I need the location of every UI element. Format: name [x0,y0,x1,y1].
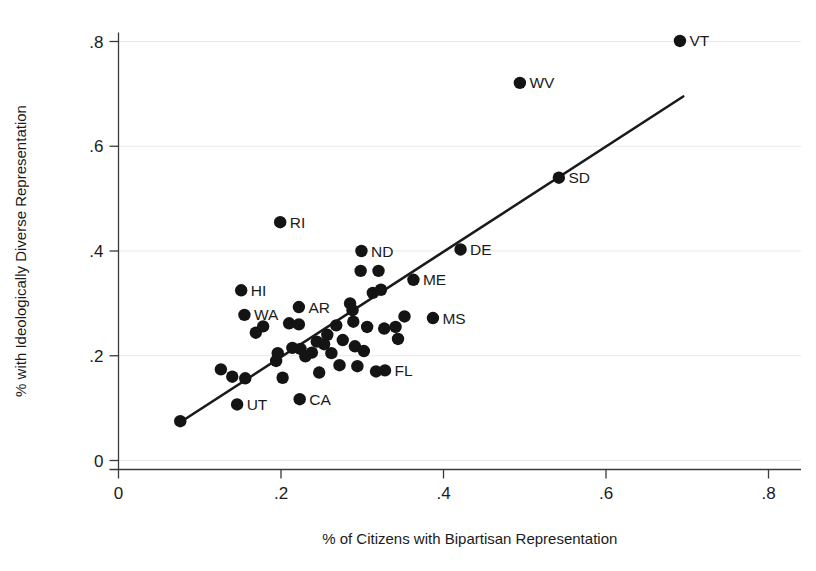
x-tick-label-3: .6 [599,484,613,503]
x-tick-labels-group: 0.2.4.6.8 [114,484,776,503]
data-point-47 [372,265,384,277]
data-point-36 [337,334,349,346]
y-tick-label-3: .6 [89,137,103,156]
point-label-RI: RI [290,214,306,231]
data-point-44 [361,321,373,333]
data-point-MS [427,312,439,324]
data-point-51 [392,333,404,345]
point-label-UT: UT [247,396,268,413]
x-tick-label-4: .8 [761,484,775,503]
y-axis-title: % with Ideologically Diverse Representat… [12,105,29,397]
data-point-16 [226,371,238,383]
data-point-DE [454,243,466,255]
data-point-VT [674,35,686,47]
data-point-32 [321,329,333,341]
data-point-43 [358,345,370,357]
x-tick-label-2: .4 [436,484,450,503]
data-point-46 [370,365,382,377]
point-label-ME: ME [423,271,446,288]
x-tick-label-0: 0 [114,484,123,503]
data-point-41 [351,360,363,372]
data-point-52 [398,310,410,322]
data-point-38 [346,304,358,316]
y-tick-label-0: 0 [94,452,103,471]
fit-line-group [180,96,683,422]
data-point-CA [293,393,305,405]
data-point-30 [313,366,325,378]
y-tick-label-4: .8 [89,33,103,52]
data-point-35 [333,359,345,371]
y-tick-labels-group: 0.2.4.6.8 [89,33,103,471]
x-axis-title: % of Citizens with Bipartisan Representa… [322,530,617,547]
data-point-ND [355,245,367,257]
data-point-21 [272,347,284,359]
data-point-SD [553,171,565,183]
data-points-group [174,35,686,428]
point-label-WA: WA [254,306,279,323]
data-point-15 [215,363,227,375]
data-point-22 [276,372,288,384]
data-point-UT [231,398,243,410]
point-label-HI: HI [251,282,267,299]
data-point-RI [274,216,286,228]
point-label-FL: FL [395,362,413,379]
x-tick-label-1: .2 [274,484,288,503]
data-point-WA [238,309,250,321]
tickmarks-group [110,42,769,479]
data-point-25 [293,318,305,330]
data-point-17 [239,372,251,384]
regression-line [180,96,683,422]
point-label-DE: DE [470,241,492,258]
point-label-WV: WV [529,74,555,91]
point-label-ND: ND [371,243,393,260]
data-point-AR [293,301,305,313]
data-point-39 [347,316,359,328]
data-point-42 [354,265,366,277]
data-point-HI [235,284,247,296]
data-point-50 [389,321,401,333]
data-point-ME [407,274,419,286]
y-tick-label-1: .2 [89,347,103,366]
point-label-CA: CA [309,391,331,408]
point-label-AR: AR [308,299,330,316]
data-point-48 [375,284,387,296]
data-point-28 [306,346,318,358]
data-point-14 [174,415,186,427]
data-point-34 [330,319,342,331]
data-point-33 [325,347,337,359]
data-point-WV [514,77,526,89]
point-label-MS: MS [442,310,465,327]
scatter-chart: 0.2.4.6.8 0.2.4.6.8 VTWVSDRIDENDMEMSHIAR… [0,0,816,571]
data-point-49 [378,322,390,334]
y-tick-label-2: .4 [89,242,103,261]
plot-area: 0.2.4.6.8 0.2.4.6.8 VTWVSDRIDENDMEMSHIAR… [0,0,816,571]
point-label-SD: SD [568,169,590,186]
point-label-VT: VT [689,32,709,49]
